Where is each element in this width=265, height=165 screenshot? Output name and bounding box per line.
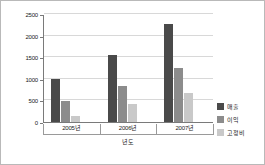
y-tick-label: 2500	[4, 12, 38, 18]
legend-swatch-icon	[217, 116, 224, 123]
plot-area	[43, 15, 213, 123]
x-axis-title: 년도	[43, 137, 213, 146]
y-tick-label: 500	[4, 98, 38, 104]
bar-group	[108, 15, 138, 122]
legend-item[interactable]: 매출	[217, 100, 263, 113]
bar	[61, 101, 70, 122]
x-tick-label: 2007년	[156, 125, 213, 131]
x-tick-label: 2005년	[43, 125, 100, 131]
x-axis-separator	[43, 124, 44, 134]
bar	[71, 116, 80, 122]
x-axis-separator	[100, 124, 101, 134]
bar	[174, 68, 183, 122]
x-axis-separator	[156, 124, 157, 134]
x-tick-label: 2006년	[100, 125, 157, 131]
legend-label: 고정비	[227, 130, 244, 136]
legend-label: 매출	[227, 104, 239, 110]
bar	[128, 104, 137, 122]
bar	[108, 55, 117, 122]
bar-chart: 05001000150020002500 2005년2006년2007년 년도 …	[0, 0, 265, 165]
bar	[118, 86, 127, 122]
gridline	[44, 13, 213, 14]
bar	[184, 93, 193, 122]
bar	[51, 79, 60, 122]
legend-item[interactable]: 이익	[217, 113, 263, 126]
legend-label: 이익	[227, 117, 239, 123]
bar	[164, 24, 173, 122]
x-axis-baseline	[43, 134, 214, 135]
legend-swatch-icon	[217, 103, 224, 110]
bar-group	[51, 15, 81, 122]
legend-item[interactable]: 고정비	[217, 126, 263, 139]
y-tick-label: 0	[4, 120, 38, 126]
bar-group	[164, 15, 194, 122]
y-tick-label: 1500	[4, 55, 38, 61]
chart-legend: 매출이익고정비	[217, 100, 263, 139]
legend-swatch-icon	[217, 129, 224, 136]
y-tick-label: 1000	[4, 77, 38, 83]
x-axis-separator	[213, 124, 214, 134]
y-tick-label: 2000	[4, 34, 38, 40]
